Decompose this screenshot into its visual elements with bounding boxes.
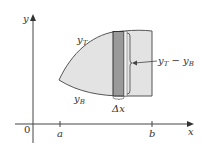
bottom-curve-label: yB bbox=[73, 93, 85, 106]
tick-label-a: a bbox=[57, 128, 63, 139]
x-axis-label: x bbox=[188, 126, 194, 137]
origin-label: 0 bbox=[24, 124, 30, 135]
tick-label-b: b bbox=[149, 128, 155, 139]
height-label: yT − yB bbox=[157, 55, 194, 68]
y-axis-arrow-icon bbox=[30, 14, 36, 21]
top-curve-label: yT bbox=[76, 34, 89, 47]
dark-strip bbox=[113, 32, 124, 97]
area-between-curves-diagram: y x 0 a b yT yB Δx yT − yB bbox=[0, 0, 207, 147]
dx-brace bbox=[113, 97, 124, 100]
shaded-region bbox=[59, 30, 152, 96]
strip-edge bbox=[124, 32, 127, 97]
delta-x-label: Δx bbox=[111, 103, 125, 114]
y-axis-label: y bbox=[22, 13, 29, 24]
